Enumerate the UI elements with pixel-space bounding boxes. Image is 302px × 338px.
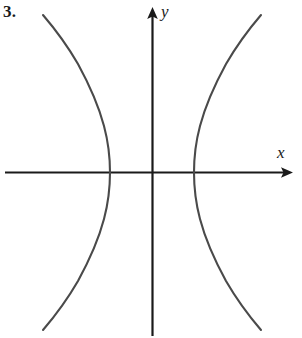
hyperbola-left-branch <box>43 15 110 173</box>
y-axis-label: y <box>161 3 169 20</box>
coordinate-plane-svg <box>0 0 302 338</box>
hyperbola-right-branch <box>194 15 261 173</box>
x-axis-label: x <box>277 144 285 161</box>
hyperbola-left-branch-lower <box>43 173 110 331</box>
problem-number-label: 3. <box>3 0 16 24</box>
hyperbola-right-branch-lower <box>194 173 261 331</box>
hyperbola-figure: 3. x y <box>0 0 302 338</box>
